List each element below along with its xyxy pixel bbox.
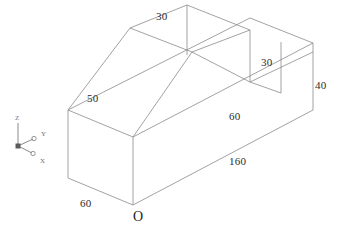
edge-slot-bottom-edge [250,82,281,93]
axis-label-z: Z [15,115,19,122]
axis-x-node-icon [31,151,35,155]
edge-base-top-back-right [250,18,313,43]
axis-origin-marker-icon [16,144,21,149]
origin-label: O [133,210,143,224]
dim-label-base-length: 160 [229,156,246,167]
axis-label-x: X [40,158,45,165]
edge-base-bottom-right [133,110,313,205]
dim-label-top-width: 30 [156,11,167,22]
edge-slot-back-diagonal [192,52,250,82]
dim-label-block-height: 40 [315,80,326,91]
edge-base-bottom-left [68,178,133,205]
edge-ramp-top-front-left [130,28,192,52]
dim-label-slot-height: 30 [261,57,272,68]
edge-slot-front-diagonal [250,52,313,82]
dim-label-base-depth: 60 [80,198,91,209]
edge-base-top-left-front [68,110,133,137]
dim-label-mid-length: 60 [229,111,240,122]
axis-y-node-icon [32,136,36,140]
edge-base-top-front-long [133,43,313,137]
edge-ramp-slope-left [68,28,130,110]
isometric-drawing-canvas [0,0,340,243]
edge-ramp-top-front-right [192,30,250,52]
edge-ramp-top-back-right [187,5,250,30]
edge-ramp-slope-center [133,52,192,137]
dim-label-upper-depth: 50 [87,93,98,104]
axis-label-y: Y [41,131,46,138]
